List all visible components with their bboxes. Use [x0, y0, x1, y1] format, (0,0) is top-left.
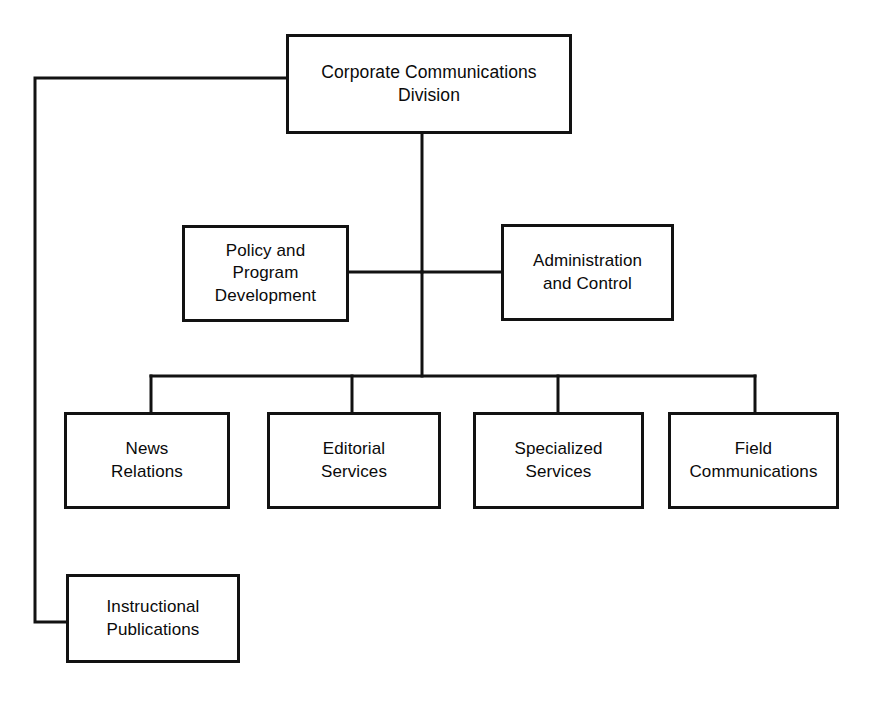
org-node-label: Policy and Program Development: [209, 240, 322, 307]
org-node-editorial-services[interactable]: Editorial Services: [267, 412, 441, 509]
org-node-news-relations[interactable]: News Relations: [64, 412, 230, 509]
org-chart-canvas: Corporate Communications Division Policy…: [0, 0, 874, 706]
org-node-label: News Relations: [105, 438, 189, 483]
connector-root-to-instructional: [35, 78, 286, 622]
org-node-label: Editorial Services: [315, 438, 393, 483]
org-node-label: Corporate Communications Division: [315, 61, 542, 107]
org-node-label: Instructional Publications: [101, 596, 206, 641]
org-node-label: Field Communications: [683, 438, 823, 483]
org-node-administration-and-control[interactable]: Administration and Control: [501, 224, 674, 321]
org-node-field-communications[interactable]: Field Communications: [668, 412, 839, 509]
org-node-corporate-communications-division[interactable]: Corporate Communications Division: [286, 34, 572, 134]
org-node-label: Administration and Control: [527, 250, 648, 295]
org-node-label: Specialized Services: [508, 438, 608, 483]
org-node-specialized-services[interactable]: Specialized Services: [473, 412, 644, 509]
org-node-policy-and-program-development[interactable]: Policy and Program Development: [182, 225, 349, 322]
org-node-instructional-publications[interactable]: Instructional Publications: [66, 574, 240, 663]
